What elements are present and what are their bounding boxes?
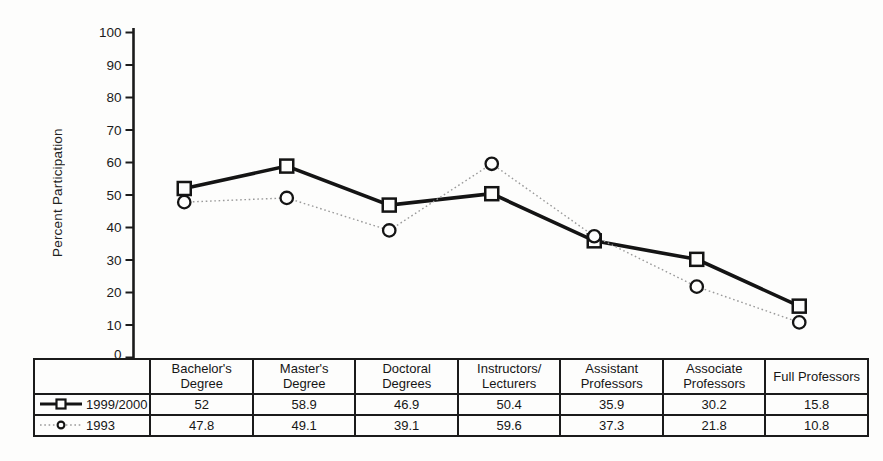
column-header: Doctoral Degrees	[355, 359, 458, 394]
value-cell: 52	[150, 394, 253, 415]
value-cell: 10.8	[765, 415, 868, 436]
value-cell: 39.1	[355, 415, 458, 436]
column-header: Master's Degree	[253, 359, 356, 394]
column-header: Full Professors	[765, 359, 868, 394]
y-tick-label: 30	[106, 253, 121, 268]
legend-square-marker-icon	[39, 397, 83, 411]
figure: Percent Participation 010203040506070809…	[0, 0, 883, 461]
value-cell: 21.8	[663, 415, 766, 436]
value-cell: 35.9	[560, 394, 663, 415]
value-cell: 46.9	[355, 394, 458, 415]
data-table: Bachelor's DegreeMaster's DegreeDoctoral…	[33, 358, 869, 437]
legend-circle-marker-icon	[39, 418, 83, 432]
y-tick-label: 20	[106, 285, 121, 300]
line-chart: 0102030405060708090100	[0, 0, 883, 360]
square-marker-icon	[793, 300, 806, 313]
y-tick-label: 10	[106, 318, 121, 333]
y-tick-label: 70	[106, 123, 121, 138]
circle-marker-icon	[486, 158, 498, 170]
circle-marker-icon	[383, 224, 395, 236]
column-header: Assistant Professors	[560, 359, 663, 394]
table-corner-spacer	[34, 359, 150, 394]
legend-label: 1999/2000	[86, 397, 147, 412]
y-tick-label: 80	[106, 90, 121, 105]
value-cell: 15.8	[765, 394, 868, 415]
value-cell: 58.9	[253, 394, 356, 415]
y-tick-label: 100	[99, 25, 122, 40]
value-cell: 50.4	[458, 394, 561, 415]
y-tick-label: 50	[106, 188, 121, 203]
legend-label: 1993	[86, 418, 115, 433]
square-marker-icon	[383, 199, 396, 212]
column-header: Bachelor's Degree	[150, 359, 253, 394]
value-cell: 59.6	[458, 415, 561, 436]
circle-marker-icon	[178, 196, 190, 208]
column-header: Associate Professors	[663, 359, 766, 394]
y-tick-label: 60	[106, 155, 121, 170]
legend-key-1999-2000: 1999/2000	[34, 394, 150, 415]
value-cell: 47.8	[150, 415, 253, 436]
square-marker-icon	[178, 182, 191, 195]
circle-marker-icon	[588, 230, 600, 242]
column-header: Instructors/ Lecturers	[458, 359, 561, 394]
circle-marker-icon	[281, 192, 293, 204]
square-marker-icon	[690, 253, 703, 266]
table-row: 199347.849.139.159.637.321.810.8	[34, 415, 868, 436]
square-marker-icon	[280, 160, 293, 173]
value-cell: 49.1	[253, 415, 356, 436]
y-tick-label: 90	[106, 58, 121, 73]
circle-marker-icon	[691, 280, 703, 292]
value-cell: 37.3	[560, 415, 663, 436]
table-row: 1999/20005258.946.950.435.930.215.8	[34, 394, 868, 415]
square-marker-icon	[485, 187, 498, 200]
value-cell: 30.2	[663, 394, 766, 415]
legend-key-1993: 1993	[34, 415, 150, 436]
circle-marker-icon	[793, 316, 805, 328]
y-tick-label: 40	[106, 220, 121, 235]
